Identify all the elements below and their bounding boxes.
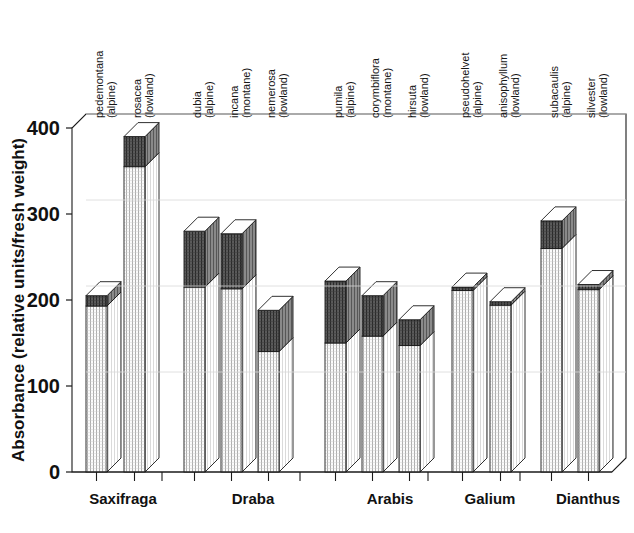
bar-side-face — [346, 329, 360, 472]
bar-upper-segment — [184, 217, 219, 287]
bar-pedemontana — [86, 282, 121, 472]
bar-front-face — [221, 289, 242, 472]
bar-side-face — [599, 276, 613, 472]
bar-side-face — [107, 292, 121, 472]
species-name-label: corymbiflora — [369, 57, 381, 118]
bar-upper-segment — [221, 220, 256, 289]
bar-front-face — [399, 320, 420, 346]
bar-side-face — [242, 275, 256, 472]
y-tick-label: 300 — [27, 203, 60, 225]
bar-front-face — [578, 285, 599, 290]
y-tick-label: 200 — [27, 289, 60, 311]
species-habitat-label: (alpine) — [471, 81, 483, 118]
bar-lower-segment — [362, 322, 397, 472]
species-name-label: anisophyllum — [497, 54, 509, 118]
bar-side-face — [145, 153, 159, 472]
bar-front-face — [490, 305, 511, 472]
bar-front-face — [362, 296, 383, 336]
bar-front-face — [124, 137, 145, 167]
bar-lower-segment — [86, 292, 121, 472]
bar-side-face — [205, 273, 219, 472]
genus-label-galium: Galium — [465, 490, 516, 507]
species-name-label: nemerosa — [265, 68, 277, 118]
bar-front-face — [184, 287, 205, 472]
bar-nemerosa — [258, 296, 293, 472]
bar-side-face — [511, 291, 525, 472]
bar-side-face — [279, 338, 293, 472]
bar-front-face — [86, 296, 107, 306]
bar-front-face — [258, 310, 279, 351]
bar-front-face — [258, 352, 279, 472]
bar-lower-segment — [258, 338, 293, 472]
bar-dubia — [184, 217, 219, 472]
species-habitat-label: (alpine) — [203, 81, 215, 118]
bar-front-face — [452, 291, 473, 472]
bar-anisophyllum — [490, 288, 525, 472]
bar-chart: 4003002001000 pedemontana(alpine)rosacea… — [0, 0, 634, 533]
species-habitat-label: (montane) — [240, 68, 252, 118]
bar-incana — [221, 220, 256, 472]
bar-front-face — [325, 343, 346, 472]
species-name-label: incana — [228, 85, 240, 118]
bar-side-face — [420, 332, 434, 472]
bar-silvester — [578, 271, 613, 472]
bar-lower-segment — [325, 329, 360, 472]
genus-label-draba: Draba — [232, 490, 275, 507]
bar-upper-segment — [258, 296, 293, 351]
species-name-label: pumila — [332, 85, 344, 118]
bar-front-face — [399, 346, 420, 472]
bar-hirsuta — [399, 306, 434, 472]
bar-pumila — [325, 267, 360, 472]
bar-front-face — [541, 248, 562, 472]
bar-subacaulis — [541, 207, 576, 472]
species-habitat-label: (alpine) — [560, 81, 572, 118]
bar-lower-segment — [221, 275, 256, 472]
species-name-label: dubia — [191, 90, 203, 118]
species-habitat-label: (lowland) — [143, 73, 155, 118]
species-habitat-label: (lowland) — [418, 73, 430, 118]
bar-front-face — [124, 167, 145, 472]
bar-corymbiflora — [362, 282, 397, 472]
species-name-label: pedemontana — [93, 50, 105, 118]
bar-front-face — [362, 336, 383, 472]
species-habitat-label: (lowland) — [277, 73, 289, 118]
bar-front-face — [86, 306, 107, 472]
bar-side-face — [562, 234, 576, 472]
svg-text:Absorbance (relative units/fre: Absorbance (relative units/fresh weight) — [9, 138, 28, 462]
y-axis-title: Absorbance (relative units/fresh weight) — [9, 138, 28, 462]
species-habitat-label: (lowland) — [509, 73, 521, 118]
bar-lower-segment — [124, 153, 159, 472]
bar-upper-segment — [325, 267, 360, 343]
bar-pseudohelvet — [452, 273, 487, 472]
species-habitat-label: (alpine) — [344, 81, 356, 118]
bar-side-face — [383, 322, 397, 472]
y-tick-label: 0 — [49, 461, 60, 483]
bar-front-face — [490, 302, 511, 305]
species-name-label: pseudohelvet — [459, 53, 471, 118]
bar-lower-segment — [541, 234, 576, 472]
bar-lower-segment — [399, 332, 434, 472]
species-habitat-label: (lowland) — [597, 73, 609, 118]
y-tick-label: 100 — [27, 375, 60, 397]
species-name-label: hirsuta — [406, 84, 418, 118]
bar-front-face — [184, 231, 205, 287]
genus-label-arabis: Arabis — [367, 490, 414, 507]
species-habitat-label: (alpine) — [105, 81, 117, 118]
species-habitat-label: (montane) — [381, 68, 393, 118]
bar-front-face — [325, 281, 346, 343]
bar-rosacea — [124, 123, 159, 472]
species-name-label: subacaulis — [548, 66, 560, 118]
species-name-label: rosacea — [131, 78, 143, 118]
bar-lower-segment — [578, 276, 613, 472]
genus-label-dianthus: Dianthus — [556, 490, 620, 507]
bar-front-face — [578, 290, 599, 472]
bar-lower-segment — [184, 273, 219, 472]
bar-front-face — [221, 234, 242, 289]
bar-lower-segment — [452, 277, 487, 472]
bar-front-face — [541, 221, 562, 249]
chart-canvas: 4003002001000 pedemontana(alpine)rosacea… — [0, 0, 634, 533]
species-name-label: silvester — [585, 77, 597, 118]
y-tick-label: 400 — [27, 117, 60, 139]
genus-label-saxifraga: Saxifraga — [89, 490, 157, 507]
bar-lower-segment — [490, 291, 525, 472]
